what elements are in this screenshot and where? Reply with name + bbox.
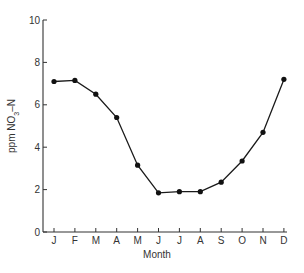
y-axis-label: ppm NO3–N: [6, 99, 20, 153]
data-point: [135, 163, 140, 168]
y-tick-label: 6: [34, 99, 40, 110]
y-tick-label: 10: [29, 15, 41, 26]
data-point: [219, 180, 224, 185]
series-line: [54, 79, 284, 192]
y-tick-label: 2: [34, 184, 40, 195]
x-tick-label: J: [156, 235, 161, 246]
x-tick-label: O: [238, 235, 246, 246]
data-point: [240, 158, 245, 163]
data-point: [114, 115, 119, 120]
x-tick-label: A: [113, 235, 120, 246]
data-point: [51, 79, 56, 84]
x-axis-label: Month: [143, 249, 171, 260]
data-point: [156, 190, 161, 195]
data-point: [281, 77, 286, 82]
x-axis: JFMAMJJASOND: [43, 228, 288, 246]
line-chart: 0246810 JFMAMJJASOND Month ppm NO3–N: [0, 0, 304, 273]
y-tick-label: 0: [34, 227, 40, 238]
x-tick-label: M: [133, 235, 141, 246]
x-tick-label: M: [92, 235, 100, 246]
y-axis-label-pre: ppm NO: [6, 116, 17, 153]
y-tick-label: 4: [34, 142, 40, 153]
data-point: [93, 92, 98, 97]
x-tick-label: A: [197, 235, 204, 246]
y-axis: 0246810: [29, 15, 47, 238]
plot-area: [51, 77, 286, 196]
x-tick-label: D: [280, 235, 287, 246]
data-point: [72, 78, 77, 83]
x-tick-label: S: [218, 235, 225, 246]
x-tick-label: J: [177, 235, 182, 246]
y-axis-label-post: –N: [6, 99, 17, 112]
y-tick-label: 8: [34, 57, 40, 68]
x-tick-label: N: [259, 235, 266, 246]
x-tick-label: F: [72, 235, 78, 246]
x-tick-label: J: [52, 235, 57, 246]
data-point: [198, 189, 203, 194]
data-point: [177, 189, 182, 194]
data-point: [260, 130, 265, 135]
